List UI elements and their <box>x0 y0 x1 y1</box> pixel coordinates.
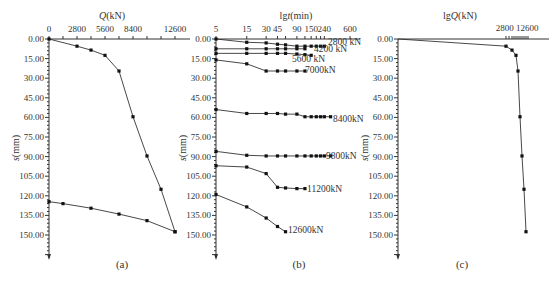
data-point <box>284 52 287 55</box>
x-axis-title: lgQ(kN) <box>443 10 477 22</box>
data-point <box>214 150 217 153</box>
x-axis-title: Q(kN) <box>99 10 125 22</box>
data-point <box>319 115 322 118</box>
x-tick-label: 30 <box>262 24 272 34</box>
data-point <box>276 43 279 46</box>
data-point <box>103 54 106 57</box>
data-point <box>310 45 313 48</box>
y-tick-label: 105.00 <box>186 171 211 181</box>
data-point <box>295 69 298 72</box>
data-point <box>245 62 248 65</box>
series-unloading <box>49 202 175 232</box>
data-point <box>265 154 268 157</box>
data-point <box>159 188 162 191</box>
x-tick-label: 5 <box>214 24 219 34</box>
data-point <box>510 49 513 52</box>
data-point <box>315 115 318 118</box>
data-point <box>89 207 92 210</box>
panel-a: 028005600840012600Q(kN)0.0015.0030.0045.… <box>10 10 190 271</box>
data-point <box>303 47 306 50</box>
x-tick-label: 240 <box>318 24 332 34</box>
data-point <box>303 115 306 118</box>
data-point <box>284 186 287 189</box>
y-tick-label: 75.00 <box>24 132 45 142</box>
series-label: 7000kN <box>305 65 336 75</box>
y-tick-label: 135.00 <box>186 210 211 220</box>
data-point <box>310 115 313 118</box>
data-point <box>522 188 525 191</box>
panel-label: (b) <box>293 258 306 271</box>
panel-b-y-axis: 0.0015.0030.0045.0060.0075.0090.00105.00… <box>186 34 218 260</box>
data-point <box>284 47 287 50</box>
data-point <box>315 154 318 157</box>
y-tick-label: 120.00 <box>368 191 393 201</box>
y-tick-label: 105.00 <box>368 171 393 181</box>
data-point <box>276 69 279 72</box>
x-tick-label: 150 <box>304 24 318 34</box>
data-point <box>276 186 279 189</box>
data-point <box>47 37 50 40</box>
y-axis-title: s(mm) <box>177 135 189 161</box>
series-lgQ-s <box>398 39 526 232</box>
data-point <box>173 230 176 233</box>
series-label: 5600 kN <box>292 54 325 64</box>
x-tick-label: 5600 <box>96 24 115 34</box>
series-label: 12600kN <box>288 225 324 235</box>
x-tick-label: 12600 <box>164 24 187 34</box>
y-tick-label: 150.00 <box>368 230 393 240</box>
x-tick-label: 2800 <box>68 24 87 34</box>
y-tick-label: 90.00 <box>24 152 45 162</box>
data-point <box>245 165 248 168</box>
data-point <box>214 164 217 167</box>
y-tick-label: 30.00 <box>191 73 212 83</box>
data-point <box>245 47 248 50</box>
data-point <box>265 172 268 175</box>
data-point <box>245 52 248 55</box>
series-label: 4200 kN <box>314 44 347 54</box>
x-tick-label: 45 <box>273 24 283 34</box>
data-point <box>284 154 287 157</box>
series-8400kN <box>216 110 331 117</box>
panel-label: (c) <box>456 258 469 271</box>
data-point <box>61 202 64 205</box>
series-loading <box>49 39 175 232</box>
series-label: 11200kN <box>307 184 342 194</box>
y-tick-label: 30.00 <box>373 73 394 83</box>
data-point <box>265 52 268 55</box>
y-tick-label: 0.00 <box>195 34 211 44</box>
y-tick-label: 30.00 <box>24 73 45 83</box>
x-tick-label: 90 <box>292 24 302 34</box>
data-point <box>516 69 519 72</box>
data-point <box>310 154 313 157</box>
y-axis-title: s(mm) <box>359 135 371 161</box>
data-point <box>265 112 268 115</box>
data-point <box>276 225 279 228</box>
data-point <box>295 187 298 190</box>
x-tick-label: 0 <box>47 24 52 34</box>
data-point <box>518 115 521 118</box>
y-tick-label: 15.00 <box>191 54 212 64</box>
data-point <box>117 212 120 215</box>
data-point <box>214 108 217 111</box>
data-point <box>265 47 268 50</box>
y-tick-label: 15.00 <box>24 54 45 64</box>
data-point <box>214 47 217 50</box>
data-point <box>284 230 287 233</box>
data-point <box>323 115 326 118</box>
y-tick-label: 90.00 <box>191 152 212 162</box>
data-point <box>265 216 268 219</box>
data-point <box>245 112 248 115</box>
data-point <box>75 45 78 48</box>
data-point <box>284 69 287 72</box>
y-tick-label: 75.00 <box>191 132 212 142</box>
y-tick-label: 105.00 <box>19 171 44 181</box>
data-point <box>131 115 134 118</box>
y-tick-label: 60.00 <box>373 112 394 122</box>
data-point <box>89 49 92 52</box>
x-axis-title: lgt(min) <box>280 10 313 22</box>
y-tick-label: 135.00 <box>368 210 393 220</box>
data-point <box>145 154 148 157</box>
data-point <box>295 154 298 157</box>
y-tick-label: 0.00 <box>377 34 393 44</box>
y-tick-label: 120.00 <box>19 191 44 201</box>
